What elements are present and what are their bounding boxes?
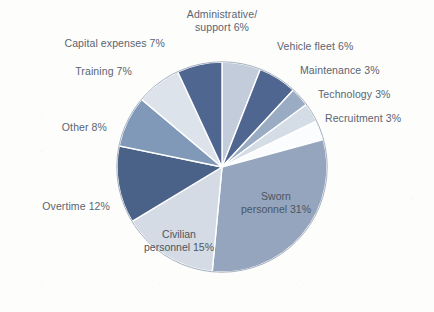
pie-chart-figure: Administrative/ support 6% Vehicle fleet… <box>0 0 434 312</box>
slice-label-vehicle-fleet: Vehicle fleet 6% <box>277 40 427 53</box>
slice-label-technology: Technology 3% <box>318 88 434 101</box>
slice-label-other: Other 8% <box>0 121 107 134</box>
slice-label-training: Training 7% <box>0 65 132 78</box>
slice-label-recruitment: Recruitment 3% <box>325 112 434 125</box>
slice-label-capital-expenses: Capital expenses 7% <box>0 37 165 50</box>
slice-label-overtime: Overtime 12% <box>0 200 110 213</box>
slice-label-administrative-support: Administrative/ support 6% <box>162 8 282 33</box>
slice-label-civilian-personnel: Civilian personnel 15% <box>127 228 231 253</box>
slice-label-maintenance: Maintenance 3% <box>300 64 434 77</box>
slice-label-sworn-personnel: Sworn personnel 31% <box>224 190 328 215</box>
